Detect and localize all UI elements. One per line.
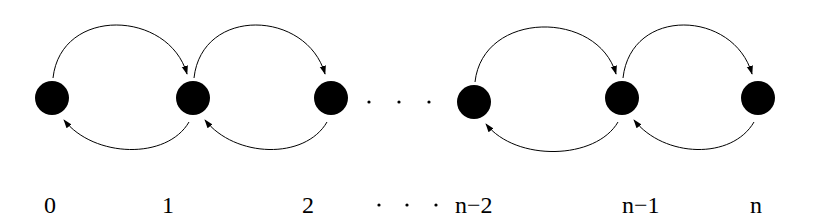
- edge-n-to-n-1: [634, 120, 754, 150]
- node-n: [741, 81, 775, 115]
- node-0: [35, 81, 69, 115]
- node-label-n-2: n−2: [455, 192, 493, 218]
- edge-1-to-0: [64, 120, 189, 150]
- node-label-n: n: [750, 192, 762, 218]
- ellipsis-dot-label-row: [377, 203, 380, 206]
- ellipsis-dot-label-row: [434, 203, 437, 206]
- node-label-n-1: n−1: [622, 192, 660, 218]
- edge-0-to-1: [53, 25, 187, 78]
- node-n-2: [457, 85, 491, 119]
- node-n-1: [605, 81, 639, 115]
- node-label-0: 0: [44, 192, 56, 218]
- edge-1-to-2: [194, 25, 325, 78]
- edge-n-2-to-n-1: [475, 27, 616, 82]
- edge-2-to-1: [205, 120, 327, 150]
- node-label-1: 1: [162, 192, 174, 218]
- edge-n-1-to-n: [623, 25, 752, 78]
- ellipsis-dot-node-row: [427, 100, 430, 103]
- ellipsis-dot-node-row: [367, 100, 370, 103]
- node-2: [314, 81, 348, 115]
- state-transition-diagram: 0 1 2 n−2 n−1 n: [0, 0, 818, 224]
- node-label-2: 2: [302, 192, 314, 218]
- node-1: [176, 81, 210, 115]
- ellipsis-dot-node-row: [397, 100, 400, 103]
- edge-n-1-to-n-2: [486, 122, 618, 152]
- ellipsis-dot-label-row: [405, 203, 408, 206]
